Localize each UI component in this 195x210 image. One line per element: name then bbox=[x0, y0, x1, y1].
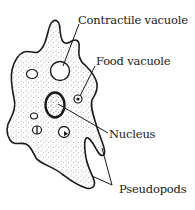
label-contractile-vacuole: Contractile vacuole bbox=[78, 15, 188, 27]
food-particle bbox=[76, 97, 79, 100]
amoeba-diagram: Contractile vacuole Food vacuole Nucleus… bbox=[0, 0, 195, 210]
label-pseudopods: Pseudopods bbox=[119, 184, 186, 196]
label-nucleus: Nucleus bbox=[109, 129, 155, 141]
label-food-vacuole: Food vacuole bbox=[96, 56, 170, 68]
contractile-vacuole bbox=[51, 62, 70, 81]
small-vacuole bbox=[27, 70, 38, 79]
leader-pseudopod-1 bbox=[102, 148, 112, 185]
nucleus bbox=[46, 93, 65, 118]
amoeba-illustration bbox=[0, 0, 195, 210]
small-vacuole-2 bbox=[31, 113, 38, 119]
